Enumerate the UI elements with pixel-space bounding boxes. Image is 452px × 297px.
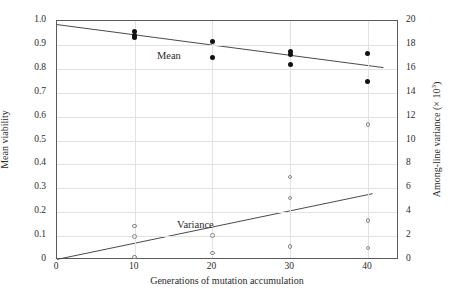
x-axis-tick-label: 30 [284,262,294,272]
y-axis-right-tick-label: 8 [406,158,411,168]
y-axis-right-tick-label: 6 [406,182,411,192]
y-axis-right-title-exponent: 3 [430,85,438,89]
gridline-horizontal [57,212,397,213]
y-axis-left-tick-label: 0.4 [34,158,46,168]
x-axis-tick-label: 40 [362,262,372,272]
gridline-horizontal [57,69,397,70]
y-axis-left-tick-label: 0.5 [34,135,46,145]
data-point-variance [366,122,371,127]
figure-scatter-plot: 00.10.20.30.40.50.60.70.80.91.0 Mean via… [0,0,452,297]
y-axis-left-title: Mean viability [0,20,12,259]
plot-area: MeanVariance [56,20,398,259]
data-point-variance [132,234,137,239]
gridline-horizontal [57,117,397,118]
y-axis-right-title-tail: ) [431,82,442,85]
y-axis-left-tick-label: 0.2 [34,206,46,216]
y-axis-left-tick-label: 0.1 [34,230,46,240]
trendline [57,25,383,68]
data-point-mean [210,39,215,44]
y-axis-right-tick-label: 16 [406,63,416,73]
x-axis-tick-label: 0 [54,262,59,272]
y-axis-right-tick-label: 12 [406,111,416,121]
annotation-variance: Variance [177,220,214,231]
data-point-mean [288,62,293,67]
gridline-horizontal [57,141,397,142]
gridline-horizontal [57,236,397,237]
x-axis: 010203040 [56,262,398,276]
data-point-variance [366,218,371,223]
gridline-horizontal [57,164,397,165]
y-axis-left-tick-label: 0 [41,254,46,264]
y-axis-left-tick-label: 0.9 [34,39,46,49]
gridline-vertical [135,21,136,258]
gridline-horizontal [57,188,397,189]
x-axis-tick-label: 20 [207,262,217,272]
y-axis-left-tick-label: 1.0 [34,15,46,25]
x-axis-tick-label: 10 [129,262,139,272]
data-point-variance [288,244,293,249]
y-axis-right-tick-label: 20 [406,15,416,25]
y-axis-left-tick-label: 0.3 [34,182,46,192]
data-point-mean [210,55,215,60]
y-axis-right-tick-label: 2 [406,230,411,240]
y-axis-left-tick-label: 0.6 [34,111,46,121]
y-axis-right-tick-label: 14 [406,87,416,97]
y-axis-right-title-base: Among-line variance (× 10 [431,89,442,198]
annotation-mean: Mean [157,50,181,61]
y-axis-right-title: Among-line variance (× 103) [426,20,442,259]
y-axis-right-tick-label: 10 [406,135,416,145]
gridline-horizontal [57,93,397,94]
data-point-variance [210,251,215,256]
y-axis-right: 02468101214161820 [402,20,428,259]
y-axis-right-tick-label: 4 [406,206,411,216]
y-axis-left-tick-label: 0.8 [34,63,46,73]
y-axis-left-tick-label: 0.7 [34,87,46,97]
data-point-variance [210,233,215,238]
y-axis-right-tick-label: 18 [406,39,416,49]
x-axis-title: Generations of mutation accumulation [56,275,398,287]
trendline [57,194,373,260]
gridline-horizontal [57,45,397,46]
y-axis-right-tick-label: 0 [406,254,411,264]
